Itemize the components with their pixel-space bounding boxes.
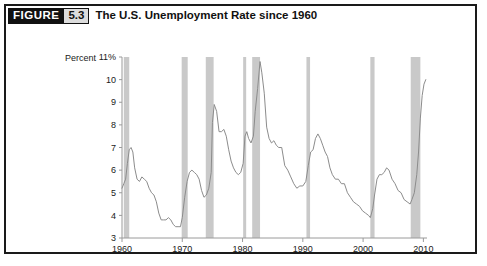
figure-number-label: 5.3 xyxy=(64,8,89,24)
figure-badge-label: FIGURE xyxy=(8,8,64,24)
figure-header: FIGURE 5.3 The U.S. Unemployment Rate si… xyxy=(8,8,317,24)
figure-frame xyxy=(4,4,477,254)
figure-title: The U.S. Unemployment Rate since 1960 xyxy=(95,8,317,24)
